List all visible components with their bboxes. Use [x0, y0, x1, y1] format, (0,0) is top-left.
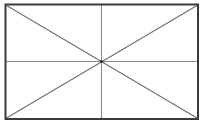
rectangle-diagonals-figure: Rectangle with diagonals and midlines A … [0, 0, 206, 126]
figure-canvas: Rectangle with diagonals and midlines A … [0, 0, 206, 126]
center-intersection [100, 60, 103, 63]
